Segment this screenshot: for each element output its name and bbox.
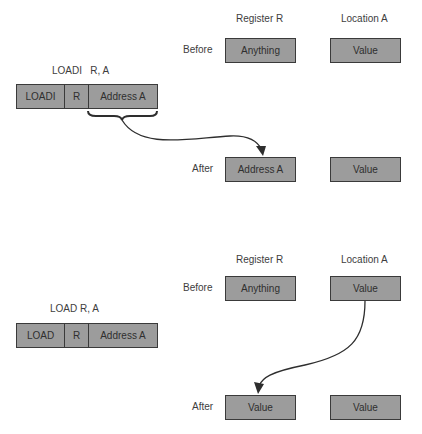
loadi-register-field: R [64, 85, 88, 108]
bottom-after-location-box: Value [330, 395, 401, 420]
top-before-location-value: Value [353, 45, 378, 56]
loadi-opcode-field: LOADI [17, 85, 64, 108]
bottom-before-register-box: Anything [225, 276, 296, 301]
load-register-field: R [64, 324, 88, 347]
top-location-header: Location A [341, 13, 388, 24]
loadi-instruction-label: LOADI R, A [52, 65, 109, 76]
bottom-before-label: Before [183, 282, 212, 293]
bottom-after-register-box: Value [225, 395, 296, 420]
load-instruction-word: LOAD R Address A [16, 323, 158, 348]
top-before-label: Before [183, 44, 212, 55]
load-instruction-label: LOAD R, A [50, 303, 99, 314]
top-after-location-box: Value [330, 157, 401, 182]
bottom-before-location-value: Value [353, 283, 378, 294]
top-after-label: After [192, 163, 213, 174]
load-arrow-icon [259, 301, 365, 386]
bottom-after-location-value: Value [353, 402, 378, 413]
bottom-before-register-value: Anything [241, 283, 280, 294]
loadi-instruction-word: LOADI R Address A [16, 84, 158, 109]
top-before-register-value: Anything [241, 45, 280, 56]
top-before-location-box: Value [330, 38, 401, 63]
top-after-register-box: Address A [225, 157, 296, 182]
top-register-header: Register R [236, 13, 283, 24]
bottom-register-header: Register R [236, 254, 283, 265]
load-address-field: Address A [88, 324, 157, 347]
top-before-register-box: Anything [225, 38, 296, 63]
top-after-register-value: Address A [238, 164, 284, 175]
top-after-location-value: Value [353, 164, 378, 175]
load-opcode-field: LOAD [17, 324, 64, 347]
bottom-after-label: After [192, 401, 213, 412]
bottom-location-header: Location A [341, 254, 388, 265]
loadi-arrow-icon [122, 120, 262, 150]
address-brace-icon [88, 111, 157, 120]
loadi-address-field: Address A [88, 85, 157, 108]
bottom-before-location-box: Value [330, 276, 401, 301]
bottom-after-register-value: Value [248, 402, 273, 413]
